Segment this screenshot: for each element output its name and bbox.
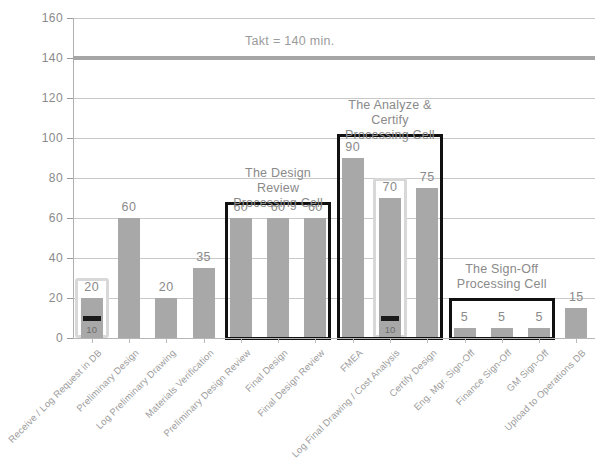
y-axis-label-20: 20 [49, 291, 63, 305]
plot-area: 020406080100120140160Takt = 140 min.2060… [73, 18, 595, 338]
x-axis-label-7: FMEA [337, 347, 364, 374]
bar-value-label-0: 20 [84, 280, 99, 294]
design-review-cell-title: The Design Review Processing Cell [225, 166, 331, 211]
dark-segment-0 [83, 316, 101, 321]
analyze-certify-cell-title: The Analyze & Certify Processing Cell [337, 98, 443, 143]
bar-value-label-3: 35 [196, 250, 211, 264]
y-axis-line [73, 18, 74, 338]
gridline-120 [73, 98, 595, 99]
y-axis-label-60: 60 [49, 211, 63, 225]
bar-value-label-1: 60 [122, 200, 137, 214]
y-axis-label-0: 0 [56, 331, 63, 345]
x-tick-1 [129, 339, 130, 343]
bar-value-label-13: 15 [569, 290, 584, 304]
y-axis-label-100: 100 [42, 131, 63, 145]
bar-13[interactable] [565, 308, 587, 338]
x-tick-10 [465, 339, 466, 343]
x-tick-9 [427, 339, 428, 343]
x-tick-2 [166, 339, 167, 343]
y-axis-label-120: 120 [42, 91, 63, 105]
x-tick-3 [204, 339, 205, 343]
x-tick-6 [315, 339, 316, 343]
bar-1[interactable] [118, 218, 140, 338]
sign-off-cell-title: The Sign-Off Processing Cell [449, 262, 555, 292]
x-tick-7 [353, 339, 354, 343]
bar-3[interactable] [193, 268, 215, 338]
sign-off-cell [449, 298, 555, 340]
y-axis-label-140: 140 [42, 51, 63, 65]
gridline-80 [73, 178, 595, 179]
gridline-160 [73, 18, 595, 19]
x-tick-0 [92, 339, 93, 343]
takt-reference-label: Takt = 140 min. [245, 34, 335, 48]
y-axis-label-40: 40 [49, 251, 63, 265]
x-tick-4 [241, 339, 242, 343]
y-axis-label-80: 80 [49, 171, 63, 185]
gridline-60 [73, 218, 595, 219]
x-axis-label-3: Materials Verification [142, 347, 215, 420]
x-axis-label-1: Preliminary Design [74, 347, 141, 414]
bar-value-label-2: 20 [159, 280, 174, 294]
analyze-certify-cell [337, 134, 443, 340]
x-tick-8 [390, 339, 391, 343]
bar-chart: 020406080100120140160Takt = 140 min.2060… [0, 0, 610, 464]
design-review-cell [225, 202, 331, 340]
takt-reference-line [73, 56, 595, 60]
x-axis-label-6: Final Design Review [255, 347, 327, 419]
gridline-100 [73, 138, 595, 139]
x-tick-13 [576, 339, 577, 343]
x-tick-12 [539, 339, 540, 343]
x-tick-11 [502, 339, 503, 343]
x-axis-line [73, 338, 595, 339]
x-tick-5 [278, 339, 279, 343]
bar-2[interactable] [155, 298, 177, 338]
y-axis-label-160: 160 [42, 11, 63, 25]
dark-segment-label-0: 10 [86, 324, 97, 335]
gridline-40 [73, 258, 595, 259]
